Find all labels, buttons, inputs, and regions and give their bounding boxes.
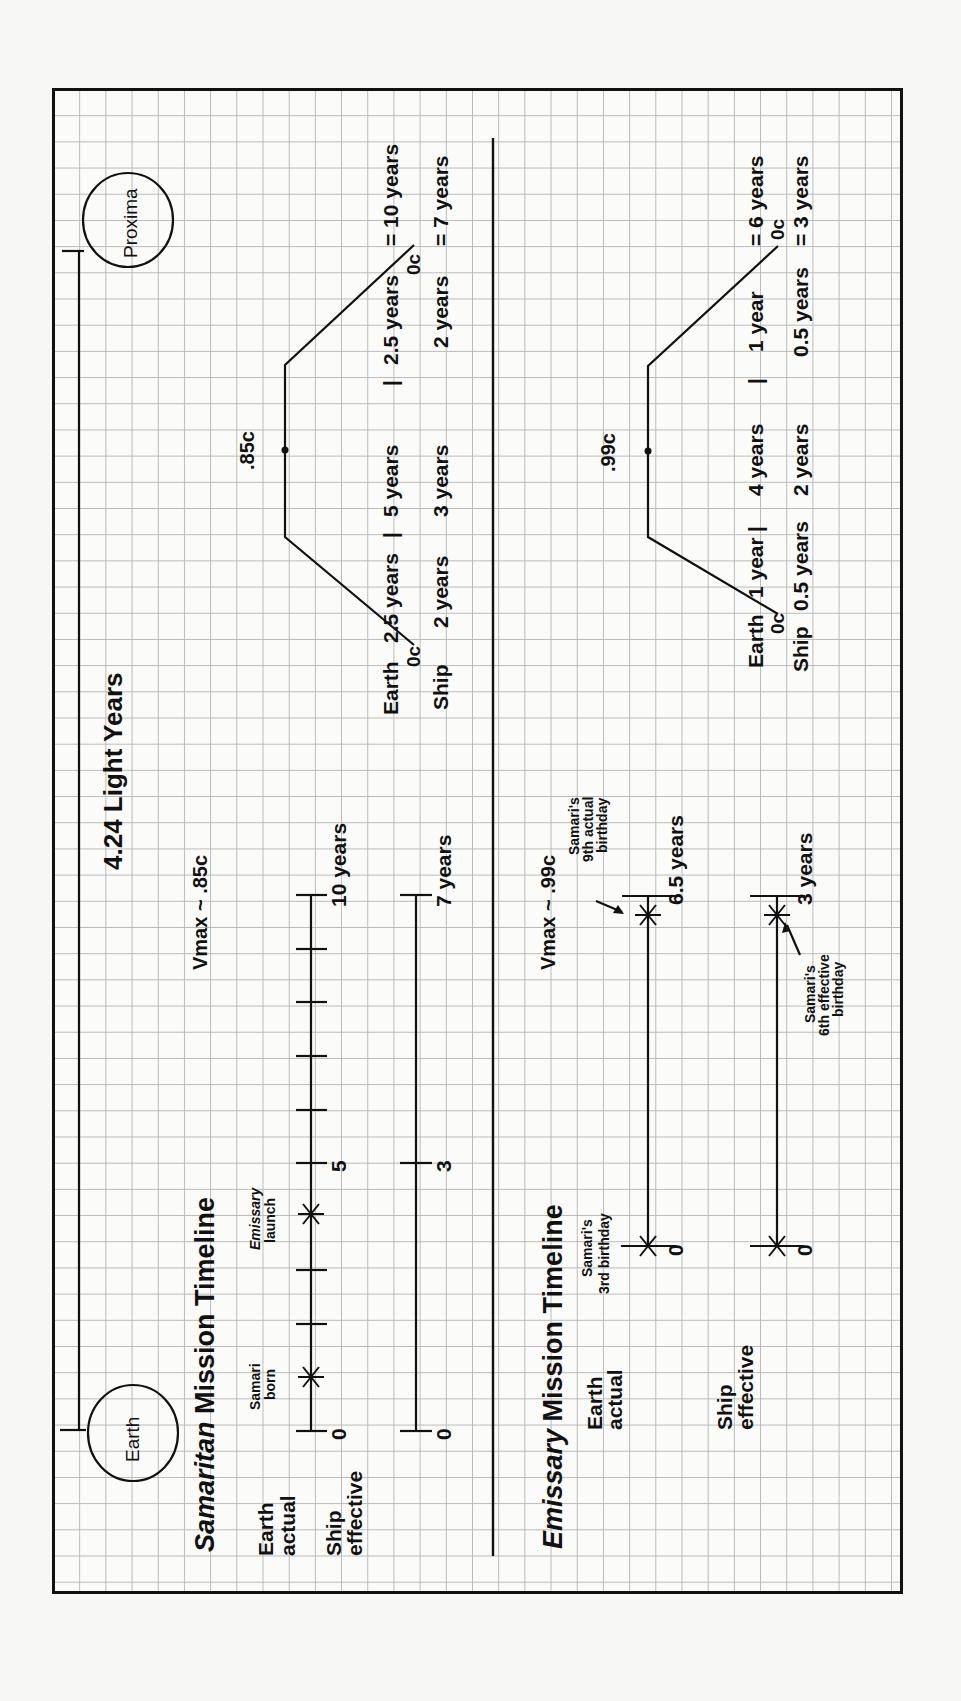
samaritan-earth-label-2: actual [277, 1495, 298, 1556]
samari-born-label-1: Samari [248, 1363, 263, 1410]
emissary-earth-sep1: | [745, 526, 766, 532]
emissary-start-speed: 0c [768, 613, 787, 634]
emissary-earth-accel: 1 year [745, 537, 766, 598]
ninth-birthday-label-3: birthday [595, 798, 610, 853]
emissary-vmax: Vmax ~ .99c [538, 855, 558, 970]
samaritan-ship-label-2: effective [344, 1471, 365, 1556]
samaritan-earth-sep1: | [380, 532, 401, 538]
samaritan-heading: Samaritan Mission Timeline [192, 1197, 219, 1552]
samaritan-ship-decel: 2 years [430, 276, 451, 348]
emissary-earth-total: = 6 years [745, 155, 766, 246]
diagram-lines [0, 0, 961, 1701]
samaritan-peak-speed: .85c [237, 431, 257, 470]
samaritan-ship-row-label: Ship [430, 665, 451, 711]
samaritan-earth-total: = 10 years [380, 144, 401, 246]
samaritan-earth-label-1: Earth [255, 1502, 276, 1556]
emissary-earth-row-label: Earth [745, 614, 766, 668]
emissary-ship-cruise: 2 years [790, 424, 811, 496]
emissary-earth-sep2: | [745, 378, 766, 384]
emissary-ship-total: = 3 years [790, 155, 811, 246]
third-birthday-label-2: 3rd birthday [597, 1213, 612, 1294]
emissary-peak-speed: .99c [598, 433, 618, 472]
emissary-earth-cruise: 4 years [745, 424, 766, 496]
samaritan-heading-italic: Samaritan [190, 1421, 220, 1552]
emissary-earth-decel: 1 year [745, 291, 766, 352]
emissary-ship-label-2: effective [735, 1345, 756, 1430]
emissary-end-speed: 0c [768, 219, 787, 240]
emissary-heading: Emissary Mission Timeline [540, 1204, 567, 1549]
samaritan-ship-label-1: Ship [323, 1511, 344, 1557]
samaritan-earth-sep2: | [380, 380, 401, 386]
samaritan-earth-accel: 2.5 years [380, 553, 401, 643]
samaritan-earth-decel: 2.5 years [380, 275, 401, 365]
samaritan-ship-cruise: 3 years [430, 445, 451, 517]
emissary-earth-start: 0 [665, 1244, 686, 1256]
emissary-ship-end: 3 years [794, 833, 815, 905]
samaritan-earth-row-label: Earth [380, 661, 401, 715]
emissary-ship-accel: 0.5 years [790, 521, 811, 611]
emissary-launch-label-2: launch [263, 1198, 278, 1243]
third-birthday-label-1: Samari's [580, 1219, 595, 1277]
samaritan-end-speed: 0c [404, 254, 423, 275]
samaritan-peak-dot [282, 447, 289, 454]
emissary-heading-rest: Mission Timeline [538, 1204, 568, 1429]
page-title: 4.24 Light Years [100, 672, 126, 870]
samaritan-earth-mid: 5 [328, 1160, 349, 1172]
emissary-earth-label-2: actual [604, 1369, 625, 1430]
proxima-label: Proxima [121, 188, 140, 258]
emissary-earth-label-1: Earth [584, 1376, 605, 1430]
emissary-ship-start: 0 [794, 1244, 815, 1256]
emissary-ship-label-1: Ship [714, 1385, 735, 1431]
emissary-launch-label-1: Emissary [248, 1188, 263, 1250]
samaritan-start-speed: 0c [404, 646, 423, 667]
emissary-ship-decel: 0.5 years [790, 267, 811, 357]
samaritan-ship-end: 7 years [433, 835, 454, 907]
samaritan-ship-total: = 7 years [430, 155, 451, 246]
emissary-peak-dot [645, 448, 652, 455]
earth-label: Earth [123, 1417, 142, 1462]
samaritan-earth-end: 10 years [328, 823, 349, 907]
samari-born-label-2: born [263, 1369, 278, 1400]
samaritan-earth-start: 0 [328, 1428, 349, 1440]
samaritan-ship-mid: 3 [433, 1160, 454, 1172]
samaritan-earth-cruise: 5 years [380, 445, 401, 517]
sixth-birthday-label-3: birthday [831, 962, 846, 1017]
samaritan-ship-start: 0 [433, 1428, 454, 1440]
samaritan-vmax: Vmax ~ .85c [190, 855, 210, 970]
emissary-ship-row-label: Ship [790, 627, 811, 673]
samaritan-heading-rest: Mission Timeline [190, 1197, 220, 1422]
emissary-heading-italic: Emissary [538, 1429, 568, 1549]
emissary-earth-end: 6.5 years [665, 815, 686, 905]
samaritan-ship-accel: 2 years [430, 556, 451, 628]
